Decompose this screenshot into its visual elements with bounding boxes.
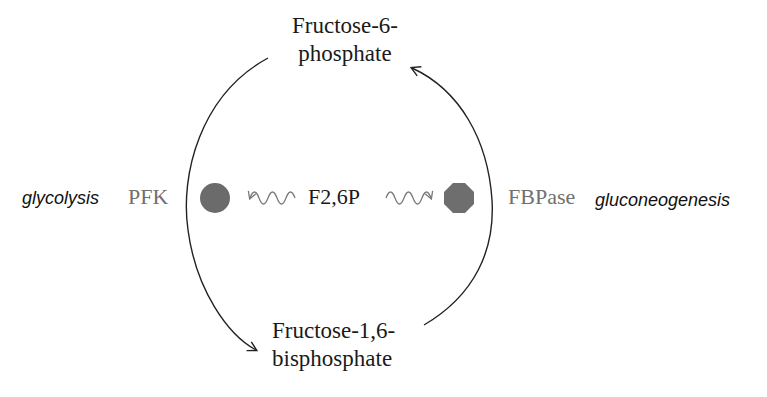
pfk-enzyme-icon	[200, 183, 230, 213]
metabolite-bottom-line1: Fructose-1,6-	[272, 317, 422, 345]
metabolite-top-line1: Fructose-6-	[270, 12, 420, 40]
pfk-label: PFK	[128, 184, 168, 210]
metabolite-top-line2: phosphate	[270, 40, 420, 68]
f26p-regulation-diagram: Fructose-6- phosphate Fructose-1,6- bisp…	[0, 0, 767, 397]
f26p-effector-label: F2,6P	[308, 184, 360, 210]
fbpase-enzyme-icon	[444, 183, 474, 213]
fructose-1-6-bisphosphate-label: Fructose-1,6- bisphosphate	[266, 317, 422, 373]
fructose-6-phosphate-label: Fructose-6- phosphate	[270, 12, 420, 68]
gluconeogenesis-label: gluconeogenesis	[595, 190, 730, 211]
glycolysis-label: glycolysis	[22, 188, 99, 209]
wave-arrow-to-pfk-icon	[250, 192, 295, 204]
wave-arrow-to-fbpase-icon	[386, 192, 431, 204]
metabolite-bottom-line2: bisphosphate	[272, 345, 422, 373]
fbpase-label: FBPase	[508, 184, 575, 210]
